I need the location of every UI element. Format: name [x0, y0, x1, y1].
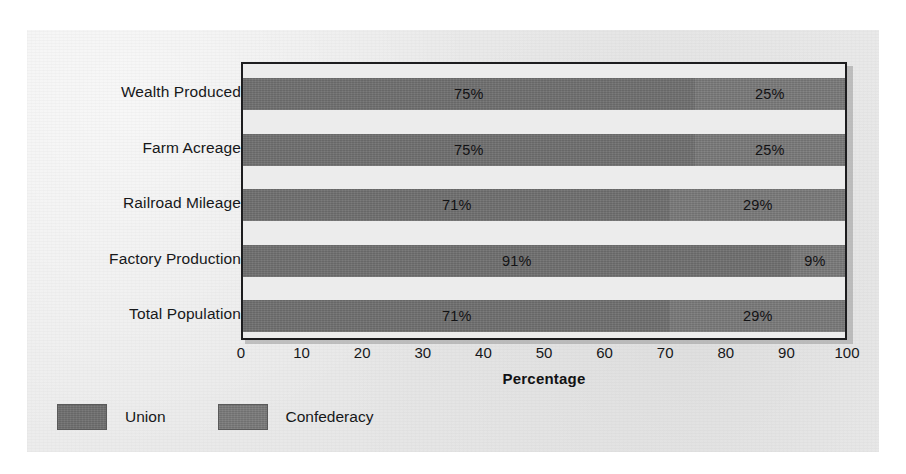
- bar-segment-confederacy: 29%: [670, 300, 845, 332]
- bar-row: 91%9%: [243, 245, 845, 277]
- x-axis-tick-label: 0: [237, 344, 245, 361]
- x-axis-tick-labels: 0102030405060708090100: [241, 344, 847, 368]
- category-label: Farm Acreage: [47, 139, 241, 157]
- x-axis-tick-label: 70: [657, 344, 674, 361]
- category-label: Railroad Mileage: [47, 194, 241, 212]
- bar-value-label: 29%: [743, 197, 773, 213]
- x-axis-title: Percentage: [241, 370, 847, 387]
- bar-value-label: 75%: [454, 86, 484, 102]
- scanned-page: Wealth ProducedFarm AcreageRailroad Mile…: [27, 30, 879, 452]
- bar-series-container: 75%25%75%25%71%29%91%9%71%29%: [243, 64, 845, 338]
- category-axis-labels: Wealth ProducedFarm AcreageRailroad Mile…: [47, 62, 241, 340]
- bar-value-label: 91%: [502, 253, 532, 269]
- legend-item: Confederacy: [218, 404, 374, 430]
- legend-swatch-union: [57, 404, 107, 430]
- bar-segment-union: 71%: [243, 300, 670, 332]
- bar-segment-union: 75%: [243, 134, 695, 166]
- bar-segment-confederacy: 25%: [695, 134, 846, 166]
- bar-value-label: 25%: [755, 142, 785, 158]
- bar-segment-union: 75%: [243, 78, 695, 110]
- bar-value-label: 25%: [755, 86, 785, 102]
- legend-label: Confederacy: [286, 408, 374, 426]
- bar-segment-union: 91%: [243, 245, 791, 277]
- x-axis-tick-label: 40: [475, 344, 492, 361]
- legend-item: Union: [57, 404, 166, 430]
- plot-area: 75%25%75%25%71%29%91%9%71%29%: [241, 62, 847, 340]
- x-axis-tick-label: 100: [834, 344, 859, 361]
- x-axis-tick-label: 50: [536, 344, 553, 361]
- bar-segment-confederacy: 29%: [670, 189, 845, 221]
- bar-row: 71%29%: [243, 300, 845, 332]
- x-axis-tick-label: 30: [414, 344, 431, 361]
- bar-segment-confederacy: 25%: [695, 78, 846, 110]
- category-label: Total Population: [47, 305, 241, 323]
- legend-label: Union: [125, 408, 166, 426]
- bar-value-label: 75%: [454, 142, 484, 158]
- bar-row: 71%29%: [243, 189, 845, 221]
- bar-value-label: 71%: [442, 197, 472, 213]
- bar-segment-confederacy: 9%: [791, 245, 845, 277]
- bar-segment-union: 71%: [243, 189, 670, 221]
- bar-row: 75%25%: [243, 134, 845, 166]
- bar-value-label: 9%: [804, 253, 825, 269]
- x-axis-tick-label: 10: [293, 344, 310, 361]
- x-axis-tick-label: 20: [354, 344, 371, 361]
- chart-legend: UnionConfederacy: [57, 404, 373, 430]
- bar-value-label: 29%: [743, 308, 773, 324]
- bar-row: 75%25%: [243, 78, 845, 110]
- legend-swatch-confederacy: [218, 404, 268, 430]
- category-label: Factory Production: [47, 250, 241, 268]
- x-axis-tick-label: 80: [717, 344, 734, 361]
- x-axis-tick-label: 90: [778, 344, 795, 361]
- x-axis-tick-label: 60: [596, 344, 613, 361]
- bar-value-label: 71%: [442, 308, 472, 324]
- category-label: Wealth Produced: [47, 83, 241, 101]
